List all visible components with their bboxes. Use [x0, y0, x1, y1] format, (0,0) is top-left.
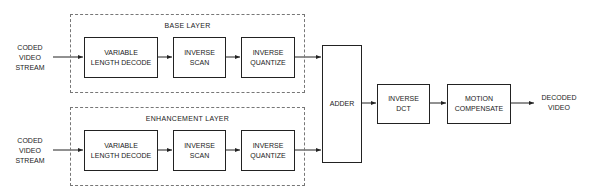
enh-variable-length-decode-block: VARIABLE LENGTH DECODE — [84, 130, 158, 171]
decoder-diagram: BASE LAYER CODED VIDEO STREAM VARIABLE L… — [0, 0, 591, 193]
base-inverse-quantize-block: INVERSE QUANTIZE — [241, 37, 295, 78]
enh-inverse-quantize-block: INVERSE QUANTIZE — [241, 130, 295, 171]
base-input-label: CODED VIDEO STREAM — [8, 43, 52, 73]
base-inverse-scan-block: INVERSE SCAN — [173, 37, 226, 78]
enh-inverse-scan-block: INVERSE SCAN — [173, 130, 226, 171]
inverse-dct-block: INVERSE DCT — [377, 84, 430, 124]
base-layer-title: BASE LAYER — [71, 22, 304, 29]
motion-compensate-block: MOTION COMPENSATE — [447, 84, 511, 124]
output-label: DECODED VIDEO — [537, 93, 581, 113]
adder-block: ADDER — [322, 45, 362, 163]
enhancement-input-label: CODED VIDEO STREAM — [8, 136, 52, 166]
base-variable-length-decode-block: VARIABLE LENGTH DECODE — [84, 37, 158, 78]
enhancement-layer-title: ENHANCEMENT LAYER — [71, 115, 304, 122]
